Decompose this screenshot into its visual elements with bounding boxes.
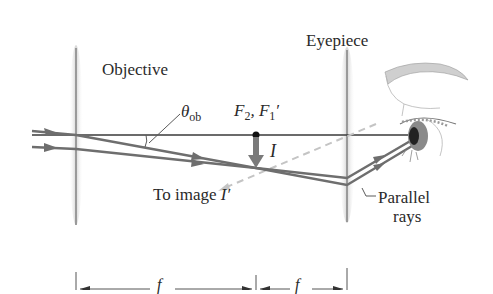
theta-subscript: ob	[189, 110, 201, 124]
theta-leader-line	[149, 114, 180, 143]
f1-prime: ′	[275, 101, 279, 120]
f-eye-label: f	[295, 276, 299, 294]
to-image-symbol: I′	[221, 185, 230, 204]
f-ob-label: f	[157, 276, 161, 294]
parallel-label: Parallel	[378, 188, 430, 208]
theta-ob-label: θob	[181, 102, 201, 125]
to-image-label: To image I′	[153, 185, 230, 205]
rays-label: rays	[393, 207, 421, 227]
image-label: I	[270, 141, 276, 162]
focus-separator: ,	[250, 101, 259, 120]
f1-symbol: F	[259, 101, 269, 120]
eyepiece-label: Eyepiece	[306, 31, 368, 51]
parallel-rays-leader	[362, 188, 376, 196]
objective-label: Objective	[102, 60, 168, 80]
theta-angle-arc	[145, 135, 147, 147]
focal-points-label: F2, F1′	[234, 101, 279, 124]
focal-length-dimensions	[76, 268, 347, 290]
to-image-text: To image	[153, 185, 221, 204]
image-arrow	[248, 137, 264, 168]
f2-symbol: F	[234, 101, 244, 120]
incoming-rays	[32, 131, 412, 185]
